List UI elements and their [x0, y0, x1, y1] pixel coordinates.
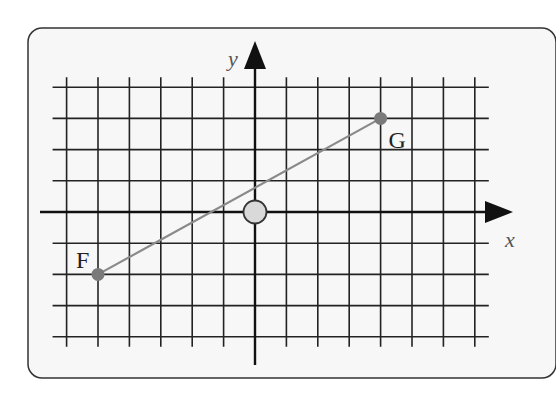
origin-circle [244, 201, 267, 224]
diagram-panel [28, 28, 556, 378]
point-label-f: F [76, 247, 89, 273]
y-axis-label: y [226, 46, 238, 71]
point-f [92, 268, 105, 281]
point-g [374, 112, 387, 125]
coordinate-diagram: FG y x [0, 0, 556, 404]
x-axis-label: x [504, 227, 515, 252]
point-label-g: G [389, 127, 406, 153]
origin-marker [244, 201, 267, 224]
